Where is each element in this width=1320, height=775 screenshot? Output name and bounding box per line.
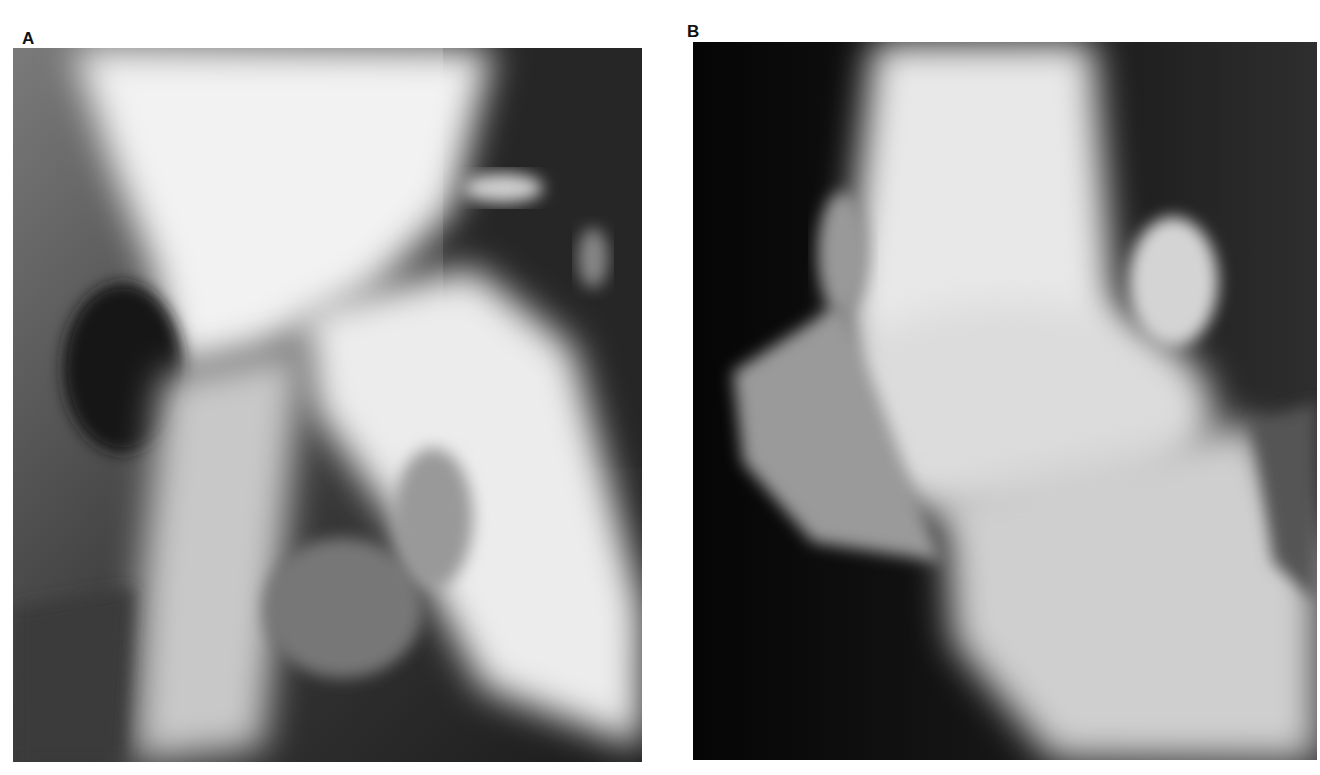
xray-image-a bbox=[13, 48, 642, 762]
radiograph-panel-b bbox=[693, 42, 1317, 760]
radiograph-panel-a bbox=[13, 48, 642, 762]
panel-b-label: B bbox=[687, 22, 699, 42]
panel-a-label: A bbox=[22, 29, 34, 49]
xray-image-b bbox=[693, 42, 1317, 760]
